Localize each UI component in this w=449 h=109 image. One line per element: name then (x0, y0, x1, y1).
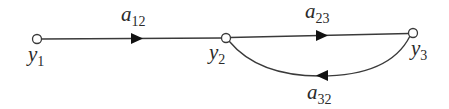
node-label-y2: y2 (209, 42, 225, 63)
node-label-y1: y1 (28, 44, 44, 65)
node-label-y3: y3 (411, 38, 427, 59)
edge-label-a32: a32 (307, 82, 332, 103)
edge-label-a12: a12 (121, 4, 146, 25)
arrow-right-icon (131, 33, 143, 44)
edge-label-a23: a23 (305, 1, 330, 22)
arrow-right-icon (316, 30, 328, 41)
edge-a32 (229, 36, 410, 76)
